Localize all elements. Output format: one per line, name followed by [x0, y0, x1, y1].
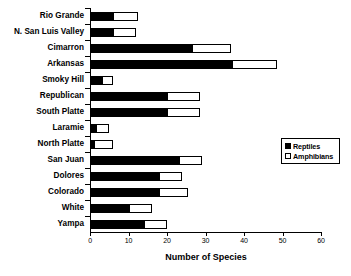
x-tick [283, 232, 284, 236]
bar-segment-amphibians [159, 188, 188, 197]
legend-item-reptiles: Reptiles [285, 141, 339, 151]
bar-segment-reptiles [90, 140, 94, 149]
bar-segment-amphibians [192, 44, 231, 53]
bar-segment-reptiles [90, 28, 113, 37]
bar-segment-reptiles [90, 76, 102, 85]
bar-segment-amphibians [113, 28, 136, 37]
bar-segment-amphibians [102, 76, 114, 85]
y-axis-label: San Juan [48, 155, 84, 164]
bar-segment-amphibians [129, 204, 152, 213]
legend-label-reptiles: Reptiles [293, 142, 320, 151]
y-axis-label: Rio Grande [40, 11, 84, 20]
bar-row [90, 172, 321, 181]
y-tick [85, 216, 90, 217]
y-tick [85, 168, 90, 169]
x-tick-label: 60 [311, 237, 331, 244]
x-tick-label: 10 [119, 237, 139, 244]
x-tick-label: 40 [234, 237, 254, 244]
bar-segment-reptiles [90, 188, 159, 197]
y-tick [85, 152, 90, 153]
y-tick [85, 120, 90, 121]
bar-segment-reptiles [90, 44, 192, 53]
y-tick [85, 40, 90, 41]
bar-row [90, 108, 321, 117]
bar-segment-reptiles [90, 220, 144, 229]
bar-row [90, 92, 321, 101]
bar-segment-amphibians [232, 60, 276, 69]
y-tick [85, 136, 90, 137]
x-tick [206, 232, 207, 236]
chart-legend: Reptiles Amphibians [281, 138, 340, 164]
legend-label-amphibians: Amphibians [293, 152, 333, 161]
y-axis-label: South Platte [36, 107, 84, 116]
x-tick [167, 232, 168, 236]
bar-row [90, 12, 321, 21]
bar-segment-amphibians [96, 124, 109, 133]
bar-segment-reptiles [90, 172, 159, 181]
y-tick [85, 72, 90, 73]
bar-row [90, 44, 321, 53]
y-axis-label: North Platte [38, 139, 84, 148]
bar-row [90, 188, 321, 197]
x-tick-label: 20 [157, 237, 177, 244]
bar-segment-reptiles [90, 12, 113, 21]
y-axis-label: Arkansas [47, 59, 84, 68]
legend-item-amphibians: Amphibians [285, 151, 339, 161]
y-axis-line [90, 8, 91, 232]
y-tick [85, 104, 90, 105]
bar-segment-reptiles [90, 124, 96, 133]
bar-segment-amphibians [179, 156, 202, 165]
bar-segment-amphibians [144, 220, 167, 229]
species-bar-chart: Rio GrandeN. San Luis ValleyCimarronArka… [0, 0, 351, 276]
bar-row [90, 60, 321, 69]
bar-segment-amphibians [159, 172, 182, 181]
bar-segment-reptiles [90, 108, 167, 117]
x-tick [321, 232, 322, 236]
bar-segment-reptiles [90, 156, 179, 165]
x-tick-label: 50 [273, 237, 293, 244]
x-tick-label: 0 [80, 237, 100, 244]
x-tick-label: 30 [196, 237, 216, 244]
bar-row [90, 220, 321, 229]
open-white-square-icon [285, 153, 291, 159]
bar-row [90, 124, 321, 133]
bar-segment-reptiles [90, 92, 167, 101]
y-tick [85, 184, 90, 185]
x-tick [129, 232, 130, 236]
y-axis-label: Yampa [58, 219, 84, 228]
x-tick [244, 232, 245, 236]
filled-black-square-icon [285, 143, 291, 149]
y-tick [85, 88, 90, 89]
y-axis-label: Colorado [48, 187, 84, 196]
y-tick [85, 24, 90, 25]
y-tick [85, 56, 90, 57]
y-axis-label: Republican [40, 91, 84, 100]
bar-row [90, 28, 321, 37]
y-axis-label: Dolores [54, 171, 84, 180]
y-axis-label: Cimarron [48, 43, 84, 52]
y-axis-label: Laramie [53, 123, 84, 132]
bar-segment-amphibians [167, 92, 200, 101]
y-tick [85, 200, 90, 201]
y-axis-label: N. San Luis Valley [14, 27, 84, 36]
bar-segment-amphibians [113, 12, 138, 21]
bar-row [90, 76, 321, 85]
y-axis-label: White [62, 203, 84, 212]
y-tick [85, 8, 90, 9]
bar-segment-reptiles [90, 204, 129, 213]
x-axis-title: Number of Species [90, 252, 322, 262]
x-tick [90, 232, 91, 236]
y-axis-label: Smoky Hill [42, 75, 84, 84]
bar-segment-amphibians [167, 108, 200, 117]
bar-segment-amphibians [94, 140, 113, 149]
bar-row [90, 204, 321, 213]
bar-segment-reptiles [90, 60, 232, 69]
